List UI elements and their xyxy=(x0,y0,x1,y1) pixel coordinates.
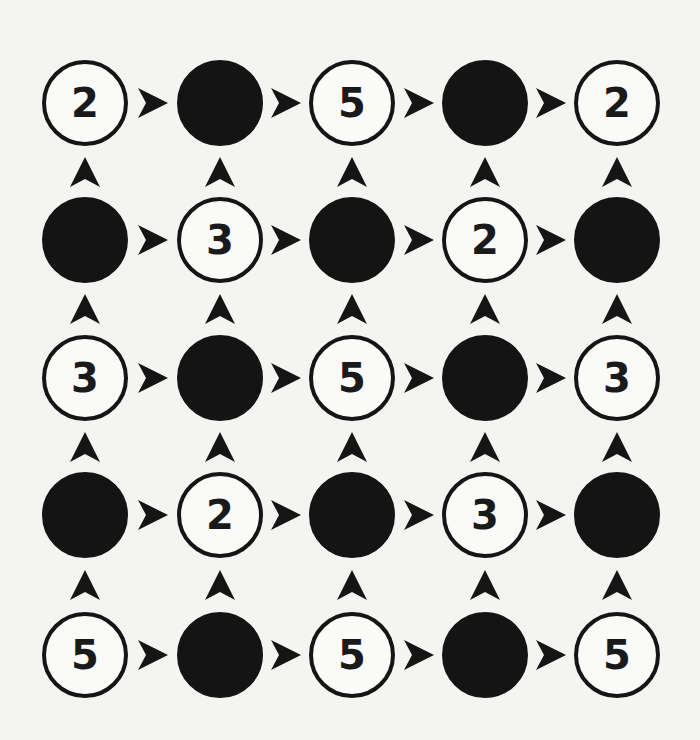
arrow-up-icon xyxy=(203,292,237,326)
arrow-right-icon xyxy=(136,223,170,257)
circle-number: 2 xyxy=(471,220,499,260)
circle-number: 5 xyxy=(338,358,366,398)
arrow-right-icon xyxy=(534,361,568,395)
arrow-right-icon xyxy=(136,498,170,532)
white-circle: 5 xyxy=(309,60,395,146)
arrow-up-icon xyxy=(203,568,237,602)
black-circle xyxy=(42,472,128,558)
arrow-right-icon xyxy=(269,638,303,672)
circle-number: 5 xyxy=(603,635,631,675)
circle-number: 2 xyxy=(71,83,99,123)
black-circle xyxy=(177,60,263,146)
arrow-up-icon xyxy=(468,292,502,326)
white-circle: 2 xyxy=(177,472,263,558)
arrow-right-icon xyxy=(534,498,568,532)
black-circle xyxy=(442,335,528,421)
circle-number: 5 xyxy=(71,635,99,675)
arrow-right-icon xyxy=(269,498,303,532)
black-circle xyxy=(42,197,128,283)
arrow-up-icon xyxy=(68,155,102,189)
white-circle: 5 xyxy=(42,612,128,698)
circle-number: 5 xyxy=(338,635,366,675)
arrow-up-icon xyxy=(600,568,634,602)
circle-number: 3 xyxy=(206,220,234,260)
circle-number: 2 xyxy=(603,83,631,123)
arrow-right-icon xyxy=(269,223,303,257)
black-circle xyxy=(177,612,263,698)
white-circle: 3 xyxy=(177,197,263,283)
black-circle xyxy=(309,197,395,283)
arrow-up-icon xyxy=(203,430,237,464)
white-circle: 5 xyxy=(309,612,395,698)
black-circle xyxy=(442,612,528,698)
arrow-right-icon xyxy=(402,86,436,120)
white-circle: 3 xyxy=(574,335,660,421)
arrow-up-icon xyxy=(203,155,237,189)
white-circle: 2 xyxy=(574,60,660,146)
white-circle: 2 xyxy=(442,197,528,283)
black-circle xyxy=(442,60,528,146)
arrow-up-icon xyxy=(68,292,102,326)
arrow-right-icon xyxy=(402,638,436,672)
arrow-right-icon xyxy=(534,223,568,257)
arrow-right-icon xyxy=(269,361,303,395)
arrow-up-icon xyxy=(468,568,502,602)
arrow-up-icon xyxy=(335,430,369,464)
black-circle xyxy=(574,197,660,283)
circle-number: 3 xyxy=(471,495,499,535)
arrow-right-icon xyxy=(402,223,436,257)
arrow-right-icon xyxy=(136,638,170,672)
arrow-right-icon xyxy=(136,86,170,120)
arrow-up-icon xyxy=(468,155,502,189)
circle-number: 2 xyxy=(206,495,234,535)
black-circle xyxy=(574,472,660,558)
arrow-up-icon xyxy=(68,568,102,602)
black-circle xyxy=(309,472,395,558)
white-circle: 5 xyxy=(574,612,660,698)
arrow-up-icon xyxy=(600,292,634,326)
circle-number: 3 xyxy=(71,358,99,398)
white-circle: 5 xyxy=(309,335,395,421)
arrow-up-icon xyxy=(68,430,102,464)
arrow-right-icon xyxy=(269,86,303,120)
arrow-right-icon xyxy=(534,638,568,672)
arrow-up-icon xyxy=(335,155,369,189)
circle-number: 3 xyxy=(603,358,631,398)
arrow-right-icon xyxy=(136,361,170,395)
black-circle xyxy=(177,335,263,421)
arrow-up-icon xyxy=(335,292,369,326)
arrow-right-icon xyxy=(534,86,568,120)
arrow-up-icon xyxy=(468,430,502,464)
arrow-up-icon xyxy=(335,568,369,602)
arrow-up-icon xyxy=(600,155,634,189)
white-circle: 2 xyxy=(42,60,128,146)
white-circle: 3 xyxy=(42,335,128,421)
white-circle: 3 xyxy=(442,472,528,558)
circle-number: 5 xyxy=(338,83,366,123)
puzzle-board: 2523235323555 xyxy=(0,0,700,740)
arrow-right-icon xyxy=(402,498,436,532)
arrow-right-icon xyxy=(402,361,436,395)
arrow-up-icon xyxy=(600,430,634,464)
